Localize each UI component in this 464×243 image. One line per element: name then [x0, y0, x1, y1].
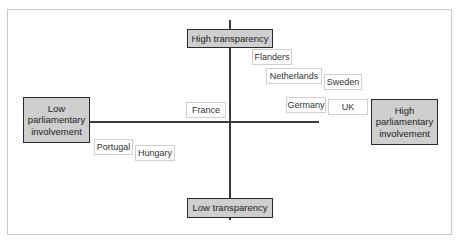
country-flanders: Flanders	[252, 49, 292, 65]
country-sweden: Sweden	[324, 74, 362, 90]
country-uk: UK	[328, 99, 368, 115]
country-portugal: Portugal	[94, 139, 133, 155]
country-label: Portugal	[97, 142, 131, 152]
country-label: UK	[342, 102, 355, 112]
pole-low-parliamentary-involvement: Low parliamentary involvement	[23, 97, 90, 143]
pole-high-transparency: High transparency	[187, 29, 273, 48]
country-germany: Germany	[286, 97, 326, 113]
country-label: Netherlands	[270, 71, 319, 81]
pole-label: Low transparency	[193, 202, 268, 214]
vertical-axis-transparency	[229, 20, 231, 220]
horizontal-axis-parliamentary-involvement	[89, 121, 319, 123]
country-hungary: Hungary	[135, 145, 175, 161]
country-france: France	[186, 102, 226, 118]
country-label: Flanders	[254, 52, 289, 62]
country-label: France	[192, 105, 220, 115]
country-netherlands: Netherlands	[266, 68, 322, 84]
country-label: Germany	[287, 100, 324, 110]
pole-label: High parliamentary involvement	[376, 105, 434, 140]
pole-low-transparency: Low transparency	[187, 198, 273, 218]
pole-label: High transparency	[191, 33, 268, 45]
pole-high-parliamentary-involvement: High parliamentary involvement	[371, 99, 438, 145]
pole-label: Low parliamentary involvement	[28, 103, 86, 138]
country-label: Hungary	[138, 148, 172, 158]
country-label: Sweden	[327, 77, 360, 87]
